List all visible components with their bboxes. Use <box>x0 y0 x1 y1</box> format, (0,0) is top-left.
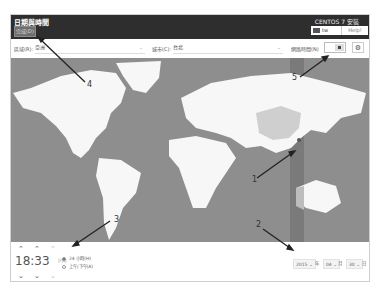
annotation-arrows <box>0 0 381 296</box>
annotation-5: 5 <box>292 73 297 82</box>
annotation-1: 1 <box>252 175 257 184</box>
annotation-4: 4 <box>87 80 92 89</box>
annotation-3: 3 <box>114 215 119 224</box>
annotation-2: 2 <box>256 220 261 229</box>
